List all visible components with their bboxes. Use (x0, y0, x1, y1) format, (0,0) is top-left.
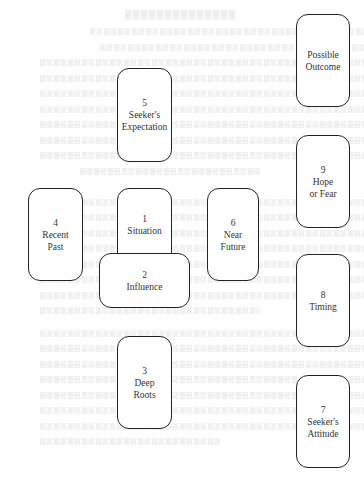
card-number: 4 (53, 217, 58, 229)
bleed-line (40, 230, 364, 237)
bleed-line (40, 121, 364, 128)
card-label-line-2: Past (48, 241, 64, 253)
bleed-line (80, 168, 260, 175)
card-number: 6 (231, 217, 236, 229)
card-label-line-2: Expectation (122, 121, 167, 133)
card-label-line-1: Influence (127, 281, 163, 293)
bleed-line (40, 307, 260, 314)
card-number: 8 (321, 289, 326, 301)
bleed-line (40, 245, 364, 252)
card-number: 5 (142, 97, 147, 109)
card-4-recent-past: 4 Recent Past (28, 188, 83, 281)
card-label-line-1: Hope (313, 176, 334, 188)
card-label-line-1: Deep (134, 377, 154, 389)
card-label-line-2: or Fear (309, 188, 336, 200)
card-label-line-1: Possible (307, 49, 339, 61)
card-number: 3 (142, 365, 147, 377)
card-number: 9 (321, 164, 326, 176)
card-label-line-1: Situation (127, 225, 161, 237)
card-number: 2 (142, 269, 147, 281)
card-6-near-future: 6 Near Future (207, 188, 259, 281)
card-9-hope-or-fear: 9 Hope or Fear (296, 135, 350, 228)
card-number: 1 (142, 213, 147, 225)
card-label-line-2: Roots (133, 389, 155, 401)
card-3-deep-roots: 3 Deep Roots (117, 336, 172, 429)
bleed-line (40, 106, 364, 113)
card-label-line-1: Seeker's (129, 109, 160, 121)
card-2-influence: 2 Influence (99, 253, 190, 308)
card-label-line-1: Seeker's (307, 416, 338, 428)
card-5-seekers-expectation: 5 Seeker's Expectation (117, 68, 172, 162)
card-label-line-2: Outcome (306, 61, 341, 73)
card-8-timing: 8 Timing (296, 254, 350, 347)
card-number: 7 (321, 404, 326, 416)
card-label-line-2: Attitude (307, 428, 338, 440)
card-7-seekers-attitude: 7 Seeker's Attitude (296, 375, 350, 468)
bleed-title (125, 10, 235, 20)
bleed-line (40, 438, 220, 445)
card-label-line-1: Near (224, 229, 242, 241)
bleed-line (40, 361, 364, 368)
card-possible-outcome: Possible Outcome (296, 14, 350, 107)
card-label-line-1: Recent (42, 229, 68, 241)
card-label-line-2: Future (221, 241, 246, 253)
card-label-line-1: Timing (309, 301, 337, 313)
